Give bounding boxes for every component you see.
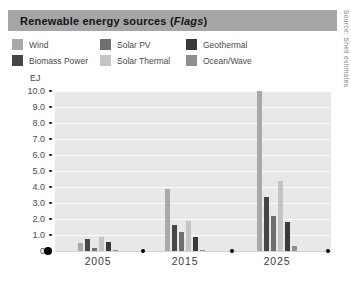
y-tick-label: 2.0 — [0, 214, 45, 224]
legend-label-solar-pv: Solar PV — [117, 40, 151, 50]
legend-label-wind: Wind — [29, 40, 48, 50]
legend-item-biomass-power: Biomass Power — [12, 55, 88, 66]
y-tick-dot — [49, 170, 52, 173]
bar-ocean-wave-2015 — [200, 250, 205, 251]
y-tick-dot — [49, 218, 52, 221]
legend-label-ocean-wave: Ocean/Wave — [203, 56, 252, 66]
bar-biomass-power-2005 — [85, 239, 90, 251]
bar-group-2025 — [257, 91, 297, 251]
legend-item-geothermal: Geothermal — [186, 39, 247, 50]
bar-wind-2015 — [165, 189, 170, 251]
y-tick-label: 8.0 — [0, 118, 45, 128]
chart-legend: Wind Solar PV Geothermal Biomass Power S… — [0, 0, 351, 70]
bar-biomass-power-2015 — [172, 225, 177, 251]
origin-dot — [44, 247, 52, 255]
bar-solar-thermal-2025 — [278, 181, 283, 251]
baseline-dot — [326, 249, 330, 253]
legend-item-ocean-wave: Ocean/Wave — [186, 55, 252, 66]
x-axis-label-2015: 2015 — [155, 255, 215, 267]
y-tick-label: 1.0 — [0, 230, 45, 240]
legend-swatch-geothermal — [186, 39, 197, 50]
bar-ocean-wave-2025 — [292, 246, 297, 251]
y-tick-dot — [49, 234, 52, 237]
bar-geothermal-2025 — [285, 222, 290, 251]
legend-item-solar-thermal: Solar Thermal — [100, 55, 170, 66]
bar-group-2005 — [78, 91, 118, 251]
legend-label-geothermal: Geothermal — [203, 40, 247, 50]
legend-swatch-solar-thermal — [100, 55, 111, 66]
x-axis-label-2005: 2005 — [68, 255, 128, 267]
legend-swatch-ocean-wave — [186, 55, 197, 66]
y-axis-unit-label: EJ — [30, 73, 41, 83]
bar-group-2015 — [165, 91, 205, 251]
baseline-dot — [230, 249, 234, 253]
legend-swatch-solar-pv — [100, 39, 111, 50]
y-tick-dot — [49, 90, 52, 93]
y-tick-label: 10.0 — [0, 86, 45, 96]
legend-item-solar-pv: Solar PV — [100, 39, 151, 50]
bar-biomass-power-2025 — [264, 197, 269, 251]
y-tick-dot — [49, 202, 52, 205]
y-tick-dot — [49, 186, 52, 189]
legend-item-wind: Wind — [12, 39, 48, 50]
y-tick-dot — [49, 138, 52, 141]
x-axis-label-2025: 2025 — [247, 255, 307, 267]
bar-geothermal-2015 — [193, 237, 198, 251]
y-tick-label: 0 — [0, 246, 45, 256]
bar-solar-thermal-2015 — [186, 221, 191, 251]
y-tick-label: 7.0 — [0, 134, 45, 144]
bar-solar-pv-2025 — [271, 216, 276, 251]
plot-area — [55, 91, 331, 252]
bar-ocean-wave-2005 — [113, 250, 118, 251]
bar-solar-thermal-2005 — [99, 237, 104, 251]
baseline-dot — [141, 249, 145, 253]
y-tick-dot — [49, 154, 52, 157]
legend-label-solar-thermal: Solar Thermal — [117, 56, 170, 66]
bar-wind-2005 — [78, 243, 83, 251]
y-tick-dot — [49, 106, 52, 109]
legend-label-biomass-power: Biomass Power — [29, 56, 88, 66]
y-tick-label: 3.0 — [0, 198, 45, 208]
legend-swatch-biomass-power — [12, 55, 23, 66]
bar-solar-pv-2005 — [92, 248, 97, 251]
y-tick-dot — [49, 122, 52, 125]
bar-solar-pv-2015 — [179, 232, 184, 251]
legend-swatch-wind — [12, 39, 23, 50]
bar-geothermal-2005 — [106, 242, 111, 251]
chart-area: 01.02.03.04.05.06.07.08.09.010.020052015… — [0, 88, 351, 274]
y-tick-label: 4.0 — [0, 182, 45, 192]
y-tick-label: 9.0 — [0, 102, 45, 112]
bar-wind-2025 — [257, 91, 262, 251]
y-tick-label: 6.0 — [0, 150, 45, 160]
y-tick-label: 5.0 — [0, 166, 45, 176]
